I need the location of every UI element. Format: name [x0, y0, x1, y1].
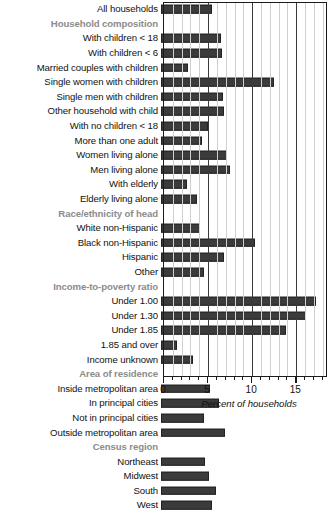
category-header-row: Income-to-poverty ratio: [0, 279, 330, 294]
bar-row: Under 1.30: [0, 308, 330, 323]
bar: [161, 63, 188, 72]
category-header-row: Race/ethnicity of head: [0, 206, 330, 221]
x-tick-minor: [181, 376, 182, 380]
category-header-row: Household composition: [0, 17, 330, 32]
x-tick-minor: [286, 376, 287, 380]
bar-cell: [161, 75, 330, 90]
bar: [161, 5, 212, 14]
x-tick-minor: [242, 376, 243, 380]
bar-row-label: With no children < 18: [0, 121, 161, 131]
x-tick-major: [251, 376, 252, 383]
x-axis-line: [163, 376, 327, 377]
bar-row: West: [0, 498, 330, 513]
bar-row-label: With children < 6: [0, 48, 161, 58]
bar-row-label: Women living alone: [0, 150, 161, 160]
bar-row-label: 1.85 and over: [0, 340, 161, 350]
bar-row: Black non-Hispanic: [0, 236, 330, 251]
bar-cell: [161, 469, 330, 484]
bar-row-label: Under 1.85: [0, 325, 161, 335]
bar-row-label: Under 1.00: [0, 296, 161, 306]
bar-row: With elderly: [0, 177, 330, 192]
x-tick-minor: [234, 376, 235, 380]
x-tick-minor: [172, 376, 173, 380]
bar-cell: [161, 425, 330, 440]
bar-row: 1.85 and over: [0, 338, 330, 353]
bar-cell: [161, 308, 330, 323]
bar-cell: [161, 46, 330, 61]
bar: [161, 355, 193, 364]
x-tick-minor: [322, 376, 323, 380]
bar-row: More than one adult: [0, 133, 330, 148]
bar-cell: [161, 338, 330, 353]
bar-row-label: Other household with child: [0, 106, 161, 116]
bar-row-label: More than one adult: [0, 136, 161, 146]
bar: [161, 151, 227, 160]
bar-row: Under 1.85: [0, 323, 330, 338]
x-tick-label: 5: [204, 384, 210, 395]
bar-row-label: In principal cities: [0, 398, 161, 408]
bar-row: Income unknown: [0, 352, 330, 367]
bar: [161, 107, 224, 116]
x-tick-major: [207, 376, 208, 383]
x-tick-major: [295, 376, 296, 383]
bar-row: Single women with children: [0, 75, 330, 90]
bar-row-label: Inside metropolitan area: [0, 384, 161, 394]
bar-row: All households: [0, 2, 330, 17]
bar-row-label: White non-Hispanic: [0, 223, 161, 233]
bar-cell: [161, 323, 330, 338]
bar-cell: [161, 294, 330, 309]
bar-row: Men living alone: [0, 163, 330, 178]
bar-cell: [161, 236, 330, 251]
bar-row: Married couples with children: [0, 60, 330, 75]
bar-row: With children < 18: [0, 31, 330, 46]
bar-cell: [161, 279, 330, 294]
bar: [161, 49, 222, 58]
bar-row: Elderly living alone: [0, 192, 330, 207]
bar-row-label: Not in principal cities: [0, 413, 161, 423]
bar: [161, 34, 221, 43]
bar: [161, 457, 205, 466]
bar: [161, 93, 223, 102]
bar-row-label: Elderly living alone: [0, 194, 161, 204]
x-tick-minor: [225, 376, 226, 380]
bar-row-label: All households: [0, 4, 161, 14]
bar-cell: [161, 90, 330, 105]
category-header-label: Race/ethnicity of head: [0, 209, 161, 219]
bar-cell: [161, 221, 330, 236]
x-tick-minor: [198, 376, 199, 380]
category-header-label: Area of residence: [0, 369, 161, 379]
bar: [161, 166, 230, 175]
bar-row: Women living alone: [0, 148, 330, 163]
category-header-label: Household composition: [0, 19, 161, 29]
bar-cell: [161, 133, 330, 148]
bar-row: White non-Hispanic: [0, 221, 330, 236]
x-tick-minor: [304, 376, 305, 380]
x-tick-label: 10: [246, 384, 257, 395]
bar-cell: [161, 484, 330, 499]
bar-row: Under 1.00: [0, 294, 330, 309]
bar: [161, 487, 216, 496]
bar: [161, 122, 208, 131]
x-tick-major: [163, 376, 164, 383]
bar-row: Outside metropolitan area: [0, 425, 330, 440]
bar: [161, 326, 286, 335]
category-header-label: Census region: [0, 442, 161, 452]
bar-cell: [161, 454, 330, 469]
bar-row: With children < 6: [0, 46, 330, 61]
bar-row-label: With children < 18: [0, 33, 161, 43]
bar: [161, 136, 202, 145]
bar-cell: [161, 177, 330, 192]
bar-row-label: Hispanic: [0, 252, 161, 262]
bar-row: Single men with children: [0, 90, 330, 105]
bar-cell: [161, 498, 330, 513]
bar: [161, 180, 187, 189]
x-tick-minor: [313, 376, 314, 380]
bar-row: Other: [0, 265, 330, 280]
bar: [161, 472, 209, 481]
bar-row-label: Other: [0, 267, 161, 277]
x-tick-minor: [269, 376, 270, 380]
bar-row-label: Outside metropolitan area: [0, 428, 161, 438]
bar-cell: [161, 163, 330, 178]
bar: [161, 268, 204, 277]
